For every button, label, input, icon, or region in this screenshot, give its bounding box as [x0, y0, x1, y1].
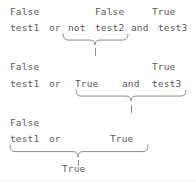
boolean-evaluation-diagram: FalseFalseTruetest1ornottest2andtest3Fal… [0, 0, 196, 183]
expression-token: test1 [10, 22, 39, 33]
grouping-brace [60, 31, 131, 48]
value-label: True [152, 61, 175, 72]
grouping-brace [73, 87, 189, 104]
reduction-tick [131, 105, 132, 113]
grouping-brace [7, 142, 151, 160]
expression-token: test3 [158, 22, 187, 33]
expression-token: or [49, 22, 61, 33]
reduction-tick [95, 48, 96, 56]
final-result-label: True [62, 163, 85, 174]
value-label: True [152, 6, 175, 17]
value-label: False [95, 6, 124, 17]
expression-token: and [131, 22, 149, 33]
value-label: False [10, 6, 39, 17]
bottom-divider [0, 180, 196, 181]
expression-token: or [49, 78, 61, 89]
value-label: False [10, 61, 39, 72]
expression-token: test1 [10, 78, 39, 89]
value-label: False [10, 117, 39, 128]
